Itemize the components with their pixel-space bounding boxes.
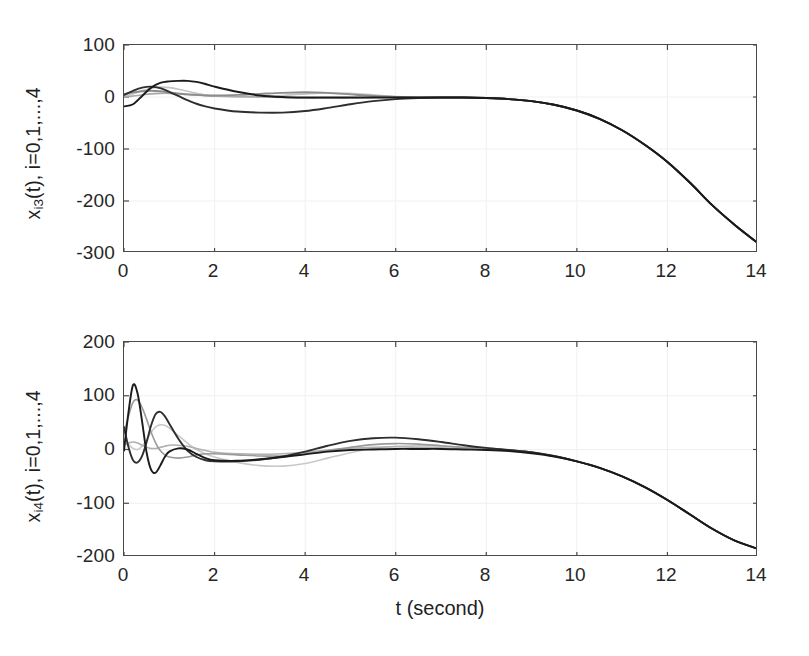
x-tick-bottom-0: 0 [93, 565, 153, 584]
y-axis-label-top-sub: i3 [31, 199, 46, 210]
y-axis-label-top-tail: (t), i=0,1,...,4 [22, 87, 44, 199]
y-axis-label-bottom-main: x [22, 513, 44, 523]
y-axis-label-bottom: xi4(t), i=0,1,...,4 [23, 356, 50, 556]
plot-canvas-top [124, 45, 757, 252]
y-axis-label-top-main: x [22, 210, 44, 220]
y-tick-top-100: 100 [51, 35, 115, 54]
x-tick-top-6: 6 [364, 261, 424, 280]
x-tick-top-14: 14 [726, 261, 786, 280]
panel-bottom: xi4(t), i=0,1,...,4 200 100 0 -100 -200 … [0, 310, 809, 656]
figure-container: xi3(t), i=0,1,...,4 100 0 -100 -200 -300… [0, 0, 809, 656]
y-axis-label-bottom-sub: i4 [31, 502, 46, 513]
x-axis-label: t (second) [290, 598, 590, 618]
x-tick-bottom-12: 12 [636, 565, 696, 584]
x-tick-bottom-2: 2 [183, 565, 243, 584]
plot-area-bottom [123, 341, 757, 556]
y-tick-bottom-m100: -100 [51, 493, 115, 512]
x-tick-top-8: 8 [455, 261, 515, 280]
x-tick-bottom-10: 10 [545, 565, 605, 584]
y-tick-top-m100: -100 [51, 139, 115, 158]
x-tick-bottom-6: 6 [364, 565, 424, 584]
y-tick-bottom-m200: -200 [51, 546, 115, 565]
x-tick-top-12: 12 [636, 261, 696, 280]
x-tick-bottom-14: 14 [726, 565, 786, 584]
y-tick-top-m300: -300 [51, 243, 115, 262]
y-axis-label-top: xi3(t), i=0,1,...,4 [23, 53, 50, 253]
y-tick-bottom-100: 100 [51, 385, 115, 404]
plot-area-top [123, 44, 757, 252]
x-tick-top-0: 0 [93, 261, 153, 280]
panel-top: xi3(t), i=0,1,...,4 100 0 -100 -200 -300… [0, 0, 809, 310]
y-tick-top-0: 0 [51, 87, 115, 106]
plot-canvas-bottom [124, 342, 757, 556]
y-tick-top-m200: -200 [51, 191, 115, 210]
y-axis-label-bottom-tail: (t), i=0,1,...,4 [22, 390, 44, 502]
y-tick-bottom-200: 200 [51, 332, 115, 351]
x-tick-top-2: 2 [183, 261, 243, 280]
x-tick-bottom-4: 4 [274, 565, 334, 584]
y-tick-bottom-0: 0 [51, 439, 115, 458]
x-tick-top-10: 10 [545, 261, 605, 280]
x-tick-top-4: 4 [274, 261, 334, 280]
x-tick-bottom-8: 8 [455, 565, 515, 584]
